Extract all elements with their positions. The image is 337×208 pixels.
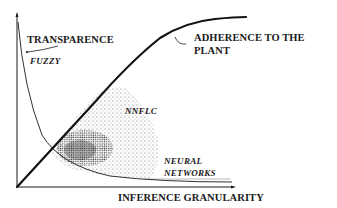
y-axis [16, 12, 19, 187]
adherence-pointer-icon [175, 37, 186, 44]
neural-label-line2: NETWORKS [164, 169, 216, 178]
x-axis-label: INFERENCE GRANULARITY [118, 193, 264, 204]
y-axis-arrowhead-icon [16, 12, 19, 17]
fuzzy-label: FUZZY [30, 57, 61, 66]
x-axis-arrowhead-icon [231, 186, 236, 189]
x-axis [17, 186, 236, 189]
adherence-label-line1: ADHERENCE TO THE [194, 33, 305, 44]
adherence-label-line2: PLANT [194, 46, 230, 57]
neural-label-line1: NEURAL [164, 157, 202, 166]
diagram-canvas: TRANSPARENCE FUZZY ADHERENCE TO THE PLAN… [0, 0, 337, 208]
nnflc-label: NNFLC [125, 107, 157, 116]
transparence-label: TRANSPARENCE [27, 35, 114, 46]
transparence-pointer-icon [26, 46, 58, 53]
